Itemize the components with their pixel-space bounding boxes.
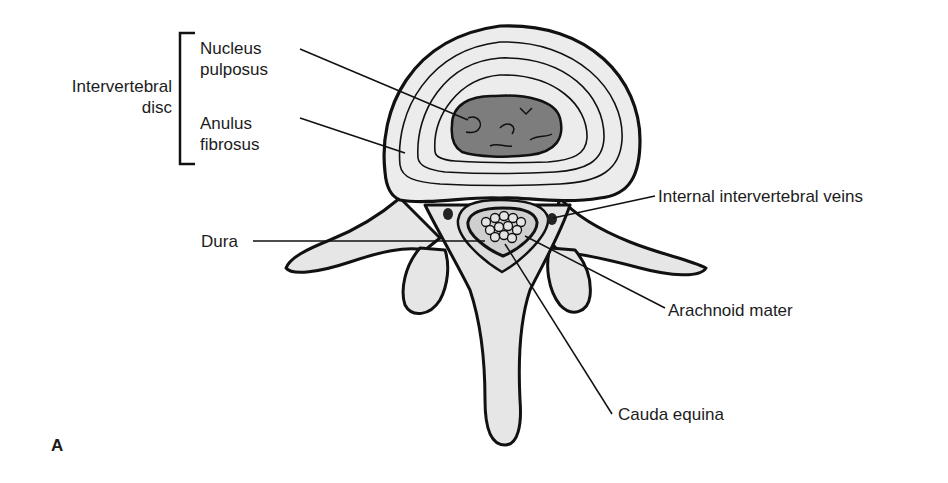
group-label-line2: disc [30, 97, 172, 118]
dura-label: Dura [201, 231, 238, 252]
panel-letter: A [51, 436, 63, 456]
vertebra-illustration [0, 0, 948, 483]
nucleus-pulposus [452, 96, 562, 157]
group-bracket [180, 33, 195, 164]
cauda-equina-label: Cauda equina [618, 404, 724, 425]
vein-right [547, 213, 557, 225]
anulus-label-line2: fibrosus [200, 134, 260, 155]
vein-left [443, 208, 453, 220]
arachnoid-mater-label: Arachnoid mater [668, 300, 793, 321]
internal-intervertebral-veins-label: Internal intervertebral veins [658, 186, 863, 207]
group-label-line1: Intervertebral [30, 76, 172, 97]
intervertebral-disc-label: Intervertebral disc [30, 76, 172, 118]
nucleus-label-line1: Nucleus [200, 38, 268, 59]
nucleus-label-line2: pulposus [200, 59, 268, 80]
nucleus-pulposus-label: Nucleus pulposus [200, 38, 268, 80]
anulus-fibrosus-label: Anulus fibrosus [200, 113, 260, 155]
anulus-label-line1: Anulus [200, 113, 260, 134]
